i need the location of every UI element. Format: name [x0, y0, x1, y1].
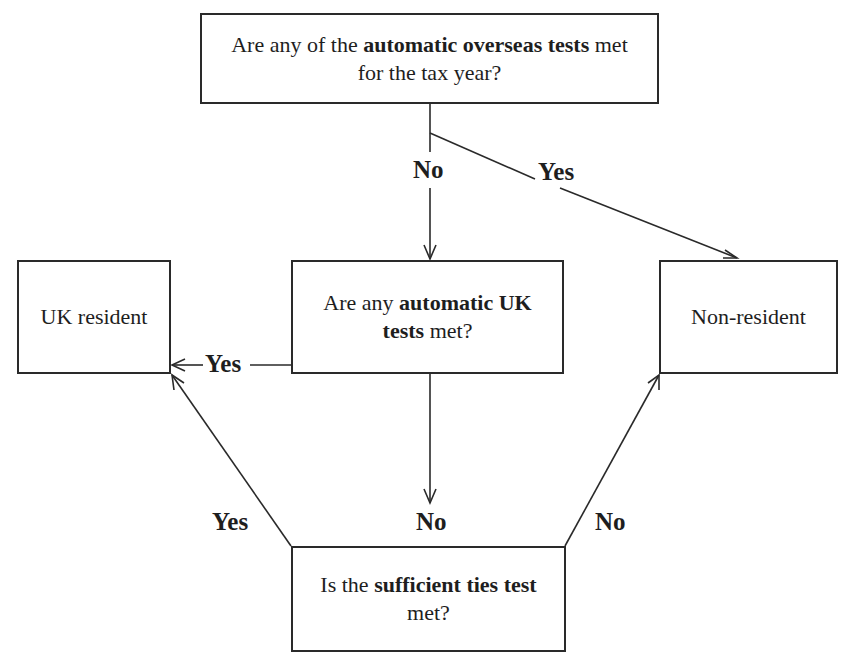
node-text-bold: automatic UK — [399, 290, 532, 315]
node-text-bold: automatic overseas tests — [363, 32, 589, 57]
node-text: met — [589, 32, 628, 57]
edge-label-yes: Yes — [205, 350, 241, 378]
node-text: Non-resident — [691, 303, 806, 331]
node-text: UK resident — [41, 303, 148, 331]
edge-label-no: No — [416, 508, 447, 536]
node-text: Is the — [320, 572, 374, 597]
edge-label-no: No — [413, 156, 444, 184]
node-text: for the tax year? — [358, 60, 502, 85]
edge-label-yes: Yes — [538, 158, 574, 186]
node-text: Are any — [323, 290, 399, 315]
node-non-resident: Non-resident — [659, 260, 838, 374]
node-sufficient-ties-test: Is the sufficient ties test met? — [291, 546, 566, 652]
edge-label-no: No — [595, 508, 626, 536]
node-uk-resident: UK resident — [17, 260, 171, 374]
node-text: met? — [407, 600, 450, 625]
node-text: Are any of the — [231, 32, 363, 57]
edge-label-yes: Yes — [212, 508, 248, 536]
node-text-bold: sufficient ties test — [374, 572, 537, 597]
edge-start-to-nonres-lower — [560, 188, 737, 258]
node-automatic-overseas-tests: Are any of the automatic overseas tests … — [200, 13, 659, 104]
node-text-bold: tests — [383, 318, 425, 343]
residence-flowchart: Are any of the automatic overseas tests … — [0, 0, 845, 664]
node-automatic-uk-tests: Are any automatic UK tests met? — [291, 260, 564, 374]
node-text: met? — [424, 318, 472, 343]
edge-start-to-nonres-upper — [430, 133, 535, 179]
